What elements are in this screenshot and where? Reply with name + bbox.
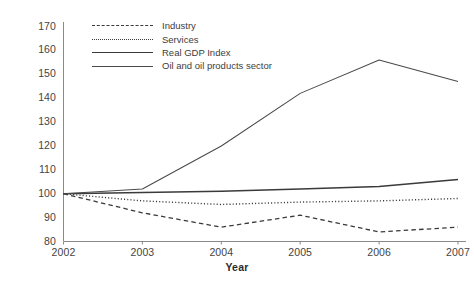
legend-item-services: Services [92, 33, 282, 47]
x-axis-title: Year [0, 261, 474, 273]
series-line-industry [64, 194, 459, 232]
legend-item-real-gdp-index: Real GDP Index [92, 46, 282, 60]
legend-swatch-real-gdp-index [92, 52, 153, 53]
series-layer [64, 60, 459, 232]
x-tick-2004: 2004 [199, 246, 243, 258]
y-tick-110: 110 [22, 163, 56, 175]
y-tick-160: 160 [22, 43, 56, 55]
series-line-real-gdp-index [64, 179, 459, 193]
legend-label-services: Services [162, 33, 198, 47]
legend-label-oil-sector: Oil and oil products sector [162, 60, 277, 72]
legend-swatch-oil-sector [92, 66, 153, 67]
y-tick-170: 170 [22, 20, 56, 32]
x-tick-2002: 2002 [42, 246, 86, 258]
y-tick-130: 130 [22, 115, 56, 127]
y-tick-100: 100 [22, 187, 56, 199]
legend-label-industry: Industry [162, 19, 196, 33]
legend-item-industry: Industry [92, 19, 282, 33]
legend-swatch-industry [92, 25, 153, 26]
x-tick-2003: 2003 [120, 246, 164, 258]
chart-legend: Industry Services Real GDP Index Oil and… [92, 19, 282, 73]
x-tick-2006: 2006 [357, 246, 401, 258]
x-tick-2007: 2007 [436, 246, 474, 258]
line-chart: 8090100110120130140150160170 20022003200… [0, 0, 474, 285]
y-tick-140: 140 [22, 91, 56, 103]
y-tick-80: 80 [22, 235, 56, 247]
y-tick-90: 90 [22, 211, 56, 223]
series-line-services [64, 194, 459, 205]
legend-label-real-gdp-index: Real GDP Index [162, 46, 230, 60]
y-tick-120: 120 [22, 139, 56, 151]
series-line-oil-and-oil-products-sector [64, 60, 459, 194]
x-tick-2005: 2005 [278, 246, 322, 258]
legend-swatch-services [92, 39, 153, 40]
legend-item-oil-sector: Oil and oil products sector [92, 60, 282, 74]
y-tick-150: 150 [22, 67, 56, 79]
